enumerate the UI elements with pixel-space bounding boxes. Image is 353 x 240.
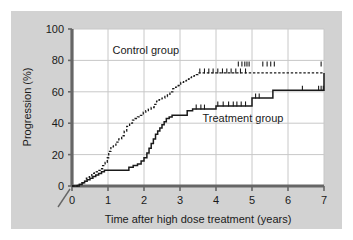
y-tick-label-60: 60 xyxy=(52,86,64,98)
x-axis-tick-labels: 01234567 xyxy=(69,194,327,206)
x-tick-label-4: 4 xyxy=(213,194,219,206)
x-tick-label-7: 7 xyxy=(321,194,327,206)
x-tick-label-2: 2 xyxy=(141,194,147,206)
y-tick-label-100: 100 xyxy=(46,23,64,35)
plot-area-background xyxy=(72,29,324,186)
y-tick-label-80: 80 xyxy=(52,54,64,66)
y-tick-label-40: 40 xyxy=(52,117,64,129)
x-tick-label-5: 5 xyxy=(249,194,255,206)
x-tick-label-1: 1 xyxy=(105,194,111,206)
x-tick-label-0: 0 xyxy=(69,194,75,206)
x-tick-label-3: 3 xyxy=(177,194,183,206)
y-axis-tick-labels: 020406080100 xyxy=(46,23,64,192)
y-tick-label-20: 20 xyxy=(52,149,64,161)
x-tick-label-6: 6 xyxy=(285,194,291,206)
series-annotation-control: Control group xyxy=(112,44,179,56)
kaplan-meier-chart: 020406080100 01234567 Control group Trea… xyxy=(0,0,353,240)
y-tick-label-0: 0 xyxy=(58,180,64,192)
figure-container: 020406080100 01234567 Control group Trea… xyxy=(0,0,353,240)
y-axis-title: Progression (%) xyxy=(21,68,33,147)
x-axis-title: Time after high dose treatment (years) xyxy=(105,213,292,225)
series-annotation-treatment: Treatment group xyxy=(203,112,284,124)
